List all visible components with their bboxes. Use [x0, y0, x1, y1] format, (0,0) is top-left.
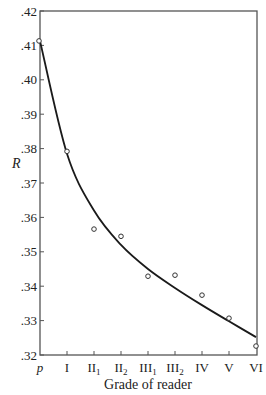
y-tick-label: .38 [21, 141, 37, 156]
y-tick-label: .32 [21, 348, 37, 363]
x-tick-label: p [36, 360, 44, 375]
y-tick-label: .33 [21, 313, 37, 328]
y-axis-title: R [11, 156, 21, 171]
y-tick-label: .39 [21, 107, 37, 122]
x-tick-label: VI [249, 360, 263, 375]
y-tick-label: .41 [21, 38, 37, 53]
y-tick-label: .42 [21, 4, 37, 19]
y-tick-label: .37 [21, 176, 38, 191]
x-tick-label: IV [195, 360, 209, 375]
x-tick-label: III1 [139, 360, 157, 377]
data-points [37, 39, 259, 349]
data-point-marker [119, 234, 124, 239]
data-point-marker [146, 274, 151, 279]
data-point-marker [200, 293, 205, 298]
x-axis-title: Grade of reader [104, 377, 192, 392]
data-point-marker [227, 316, 232, 321]
x-tick-label: I [65, 360, 69, 375]
y-tick-label: .36 [21, 210, 38, 225]
y-tick-label: .40 [21, 72, 37, 87]
fitted-curve [40, 41, 256, 337]
chart: .32.33.34.35.36.37.38.39.40.41.42 pIII1I… [0, 0, 266, 395]
y-tick-label: .35 [21, 244, 37, 259]
data-point-marker [173, 273, 178, 278]
plot-frame [40, 11, 257, 355]
x-tick-label: V [224, 360, 234, 375]
x-tick-label: II1 [87, 360, 100, 377]
data-point-marker [37, 39, 42, 44]
data-point-marker [92, 227, 97, 232]
x-tick-label: III2 [166, 360, 184, 377]
data-point-marker [254, 344, 259, 349]
y-tick-label: .34 [21, 279, 38, 294]
data-point-marker [65, 149, 70, 154]
x-tick-label: II2 [114, 360, 127, 377]
